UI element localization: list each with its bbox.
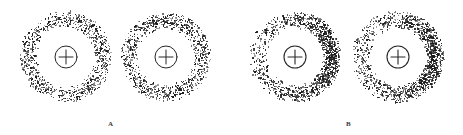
figure-canvas: AB bbox=[0, 0, 463, 135]
panel-b: B bbox=[0, 0, 463, 135]
circled-plus-icon bbox=[387, 46, 409, 68]
ring-ring-b2 bbox=[349, 8, 447, 106]
ring-ring-b1 bbox=[246, 8, 344, 106]
panel-label-b: B bbox=[346, 121, 351, 128]
circled-plus-icon bbox=[284, 46, 306, 68]
